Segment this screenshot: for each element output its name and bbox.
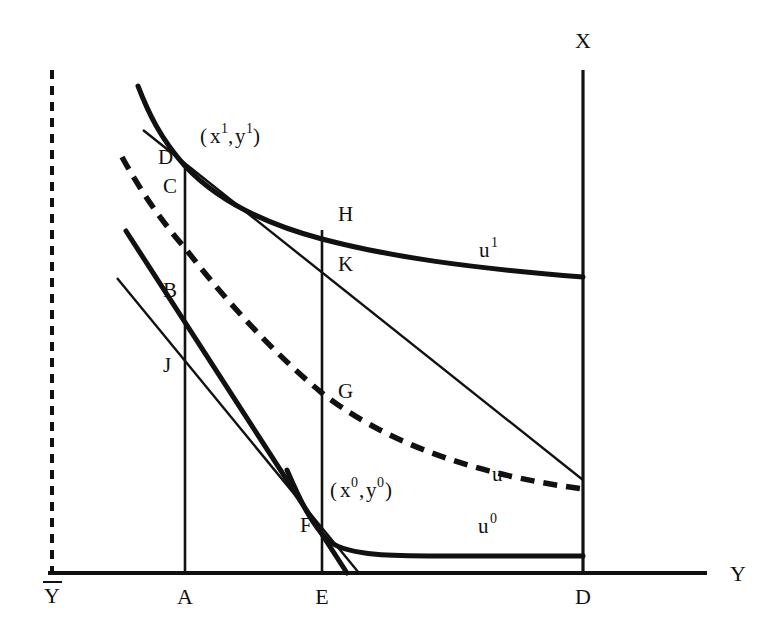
coord-high-y-sup: 1 [246, 121, 253, 136]
coord-low-x-sup: 0 [351, 475, 358, 490]
coord-low-paren-close: ) [385, 478, 392, 502]
axis-label-Y: Y [730, 561, 746, 586]
axis-label-X: X [575, 28, 591, 53]
coord-label-low-group: ( x 0 , y 0 ) [330, 475, 392, 502]
budget-line-through-F [126, 231, 347, 573]
curve-u1 [138, 86, 583, 277]
axis-label-Ybar-text: Y [44, 583, 60, 608]
point-label-C: C [163, 174, 177, 198]
coord-high-x-base: x [210, 124, 221, 148]
curve-label-u-group: u [492, 462, 503, 486]
coord-low-y-sup: 0 [377, 475, 384, 490]
point-label-G: G [338, 379, 353, 403]
point-label-K: K [338, 252, 353, 276]
curve-label-u1-group: u 1 [479, 235, 498, 262]
axis-label-Ybar: Y [44, 582, 61, 608]
indifference-curve-diagram: X Y Y A E D D C B J H K G F u 1 u u 0 [0, 0, 763, 631]
curve-label-u0-sup: 0 [490, 511, 497, 526]
point-label-J: J [163, 353, 171, 377]
figure-root: X Y Y A E D D C B J H K G F u 1 u u 0 [0, 0, 763, 631]
coord-low-y-base: y [366, 478, 377, 502]
tick-label-A: A [177, 584, 193, 609]
curve-label-u1-sup: 1 [491, 235, 498, 250]
coord-low-x-base: x [340, 478, 351, 502]
point-label-D: D [158, 145, 173, 169]
curve-label-u-base: u [492, 462, 503, 486]
curve-label-u0-base: u [478, 514, 489, 538]
point-label-B: B [163, 278, 177, 302]
point-label-F: F [300, 513, 312, 537]
coord-low-comma: , [359, 478, 364, 502]
coord-high-paren-close: ) [253, 124, 260, 148]
point-label-H: H [338, 202, 353, 226]
tick-label-E: E [315, 584, 328, 609]
coord-high-paren-open: ( [200, 124, 207, 148]
coord-low-paren-open: ( [330, 478, 337, 502]
curve-label-u0-group: u 0 [478, 511, 497, 538]
coord-high-y-base: y [235, 124, 246, 148]
coord-high-comma: , [228, 124, 233, 148]
coord-label-high-group: ( x 1 , y 1 ) [200, 121, 260, 148]
coord-high-x-sup: 1 [221, 121, 228, 136]
budget-line-tangent-u1 [143, 130, 583, 480]
curve-label-u1-base: u [479, 238, 490, 262]
tick-label-D: D [575, 584, 591, 609]
